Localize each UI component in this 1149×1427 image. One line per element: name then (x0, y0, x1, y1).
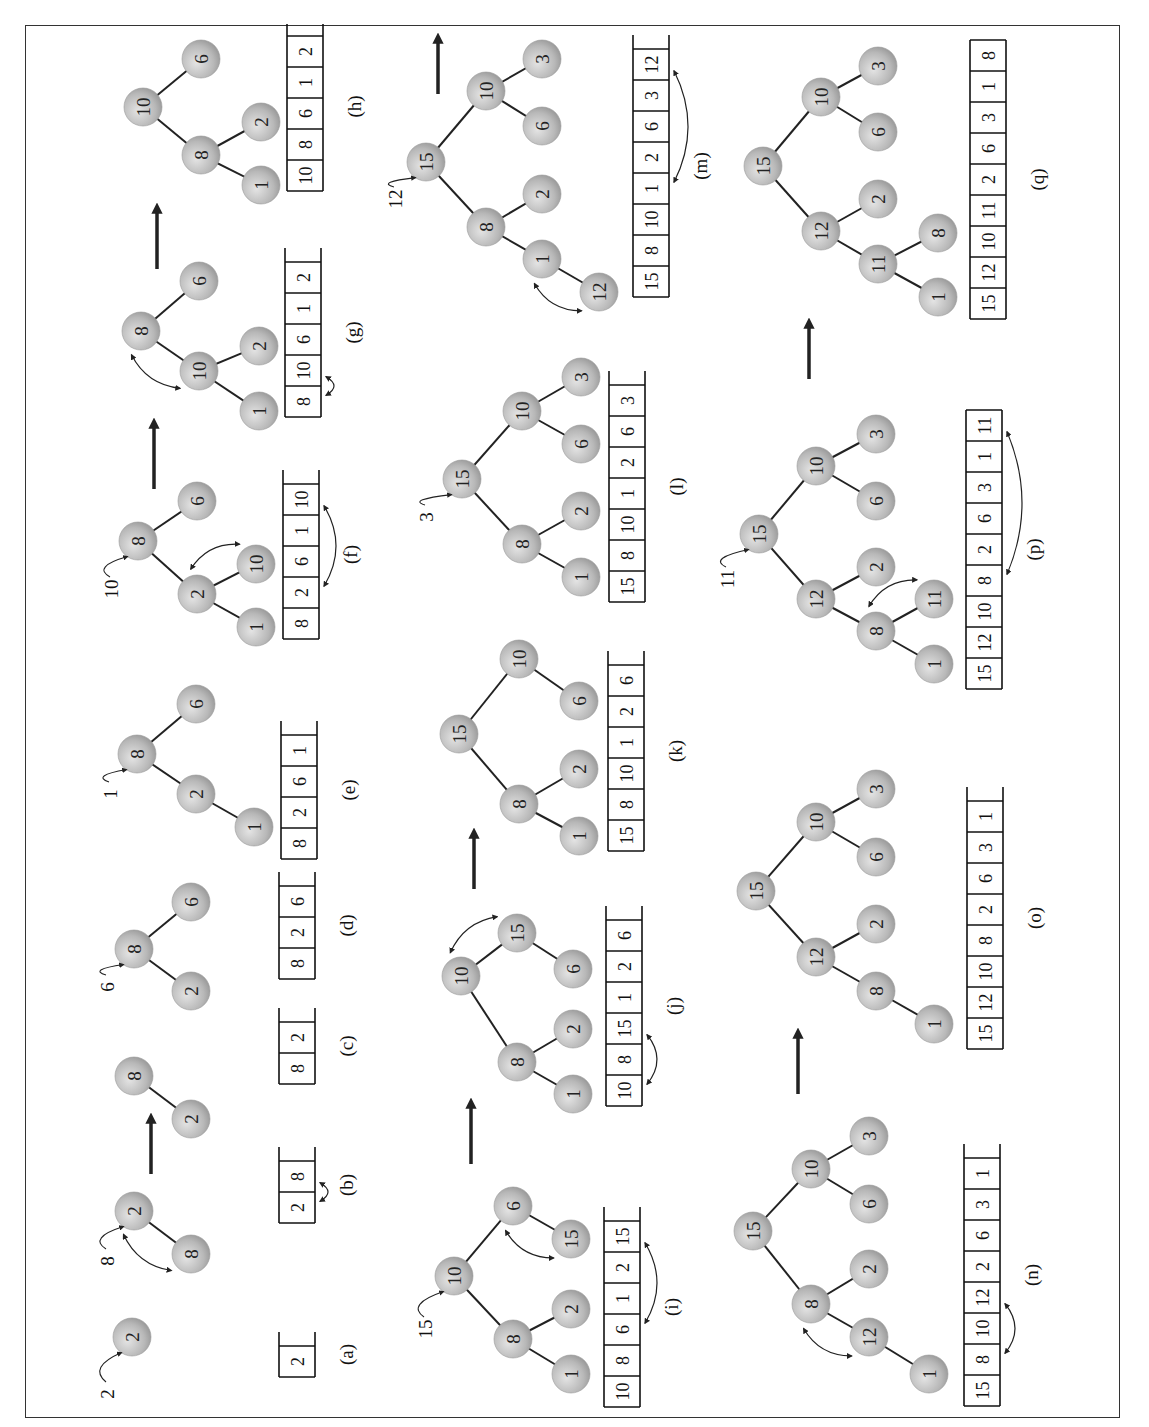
step-label: (h) (344, 95, 366, 117)
tree-node: 1 (919, 278, 957, 316)
tree-node: 2 (552, 1290, 590, 1328)
node-value: 3 (866, 784, 887, 794)
tree-node: 6 (494, 1187, 532, 1225)
heap-array: 15121082631 (967, 787, 1003, 1049)
node-value: 15 (746, 882, 767, 901)
step-label: (d) (336, 914, 358, 936)
insert-arrow-icon (418, 1292, 443, 1317)
array-cell: 15 (976, 1025, 996, 1043)
array-cell: 2 (294, 273, 314, 282)
tree-node: 3 (859, 47, 897, 85)
tree-node: 2 (172, 972, 210, 1010)
node-value: 8 (127, 749, 148, 759)
tree-node: 6 (177, 685, 215, 723)
tree-node: 6 (560, 682, 598, 720)
tree-node: 12 (802, 212, 840, 250)
array-cell: 12 (642, 56, 662, 74)
heap-step-h: 108612108612(h) (124, 24, 366, 204)
tree-node: 12 (797, 938, 835, 976)
node-value: 8 (801, 1299, 822, 1309)
tree-node: 10 (435, 1257, 473, 1295)
array-cell: 15 (617, 827, 637, 845)
tree-node: 8 (115, 930, 153, 968)
tree-node: 15 (440, 715, 478, 753)
tree-node: 10 (467, 72, 505, 110)
array-cell: 12 (975, 634, 995, 652)
array-cell: 1 (642, 184, 662, 193)
tree-node: 2 (560, 750, 598, 788)
tree-node: 2 (178, 575, 216, 613)
tree-node: 2 (523, 175, 561, 213)
inserted-value-label: 8 (97, 1256, 118, 1266)
tree-node: 2 (554, 1010, 592, 1048)
tree-node: 15 (744, 147, 782, 185)
node-value: 15 (561, 1230, 582, 1249)
tree-node: 15 (734, 1212, 772, 1250)
tree-node: 2 (172, 1100, 210, 1138)
array-cell: 1 (617, 738, 637, 747)
tree-swap-arrow-icon (191, 544, 240, 569)
node-value: 2 (187, 589, 208, 599)
heap-array: 158101263 (609, 371, 645, 602)
node-value: 6 (571, 439, 592, 449)
insert-arrow-icon (104, 557, 128, 577)
node-value: 1 (561, 1369, 582, 1379)
node-value: 1 (919, 1369, 940, 1379)
step-label: (o) (1024, 907, 1046, 929)
tree-node: 15 (498, 914, 536, 952)
node-value: 2 (251, 117, 272, 127)
tree-node: 15 (552, 1220, 590, 1258)
inserted-value-label: 11 (717, 570, 738, 588)
tree-node: 1 (560, 817, 598, 855)
node-value: 3 (532, 54, 553, 64)
heap-array: 1512108263111 (966, 410, 1022, 689)
array-swap-arrow-icon (320, 1183, 328, 1202)
array-cell: 10 (976, 963, 996, 981)
step-label: (j) (663, 997, 685, 1015)
heap-step-e: 826118261(e) (100, 685, 360, 859)
node-value: 6 (866, 496, 887, 506)
node-value: 2 (866, 919, 887, 929)
array-cell: 3 (976, 843, 996, 852)
node-value: 1 (563, 1089, 584, 1099)
node-value: 15 (753, 157, 774, 176)
tree-node: 15 (407, 143, 445, 181)
node-value: 1 (244, 822, 265, 832)
step-label: (e) (338, 779, 360, 800)
heap-step-g: 810612810612(g) (122, 248, 364, 430)
heap-array: 28 (279, 1147, 328, 1223)
node-value: 2 (561, 1304, 582, 1314)
tree-swap-arrow-icon (131, 355, 180, 389)
tree-node: 10 (500, 640, 538, 678)
node-value: 3 (859, 1131, 880, 1141)
array-cell: 2 (975, 545, 995, 554)
node-value: 8 (128, 536, 149, 546)
tree-node: 2 (113, 1318, 151, 1356)
tree-node: 8 (115, 1057, 153, 1095)
tree-node: 3 (857, 415, 895, 453)
tree-node: 12 (797, 580, 835, 618)
tree-node: 15 (740, 515, 778, 553)
tree-swap-arrow-icon (804, 1329, 852, 1356)
tree-node: 2 (857, 548, 895, 586)
array-cell: 2 (642, 153, 662, 162)
insert-arrow-icon (103, 770, 127, 782)
heap-step-p: 1512108263111111512108263111(p) (717, 410, 1045, 689)
node-value: 10 (133, 98, 154, 117)
array-cell: 6 (976, 874, 996, 883)
tree-node: 1 (235, 808, 273, 846)
tree-node: 1 (554, 1075, 592, 1113)
insert-arrow-icon (100, 1353, 122, 1382)
array-cell: 15 (979, 295, 999, 313)
insert-arrow-icon (100, 1227, 124, 1249)
array-cell: 10 (613, 1383, 633, 1401)
array-cell: 6 (294, 335, 314, 344)
tree-node: 8 (857, 612, 895, 650)
node-value: 6 (186, 699, 207, 709)
node-value: 1 (249, 406, 270, 416)
array-swap-arrow-icon (324, 506, 336, 587)
step-label: (g) (342, 321, 364, 343)
array-cell: 15 (615, 1020, 635, 1038)
node-value: 8 (476, 222, 497, 232)
array-cell: 10 (292, 491, 312, 509)
